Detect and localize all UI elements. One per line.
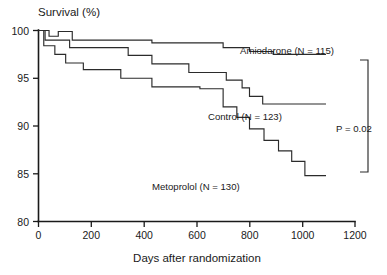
x-tick-label-0: 0 [36, 229, 42, 241]
x-tick-label-1000: 1000 [291, 229, 315, 241]
survival-chart-figure: 80 85 90 95 100 0 200 400 600 800 1000 1… [0, 0, 387, 275]
curve-label-amiodarone: Amiodarone (N = 115) [240, 45, 334, 56]
y-tick-label-90: 90 [17, 120, 29, 132]
y-tick-label-85: 85 [17, 168, 29, 180]
y-tick-label-95: 95 [17, 72, 29, 84]
curve-label-control: Control (N = 123) [208, 111, 282, 122]
x-tick-label-1200: 1200 [343, 229, 367, 241]
x-axis-title: Days after randomization [133, 252, 261, 264]
x-tick-label-200: 200 [83, 229, 101, 241]
y-axis-ticks [33, 31, 39, 222]
x-axis-ticks [39, 222, 356, 228]
significance-bracket [360, 60, 368, 172]
survival-plot-svg: 80 85 90 95 100 0 200 400 600 800 1000 1… [0, 0, 387, 275]
x-tick-label-400: 400 [135, 229, 153, 241]
x-tick-label-800: 800 [241, 229, 259, 241]
y-tick-label-80: 80 [17, 216, 29, 228]
y-axis-title: Survival (%) [38, 6, 100, 18]
x-tick-label-600: 600 [188, 229, 206, 241]
y-tick-label-100: 100 [11, 25, 29, 37]
p-value-label: P = 0.02 [336, 123, 372, 134]
curve-control [39, 31, 326, 105]
curve-label-metoprolol: Metoprolol (N = 130) [152, 181, 240, 192]
